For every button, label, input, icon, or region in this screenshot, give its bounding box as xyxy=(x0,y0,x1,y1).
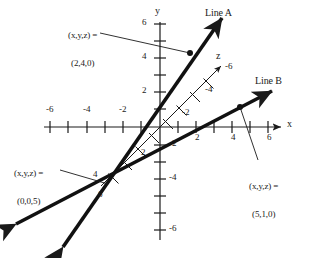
callout-005-line1: (x,y,z) = xyxy=(14,169,43,178)
callout-510: (x,y,z) = (5,1,0) xyxy=(249,163,278,239)
y-tick-label-2: 2 xyxy=(142,86,146,95)
z-tick-label-2: 2 xyxy=(141,148,145,157)
leader-240 xyxy=(100,33,190,53)
z-tick-label-6: 6 xyxy=(98,190,102,199)
line-b-label: Line B xyxy=(255,76,282,87)
x-tick-label-neg6: -6 xyxy=(46,105,53,114)
line-b-path xyxy=(16,91,272,224)
y-tick-label-4: 4 xyxy=(142,52,146,61)
y-tick-label-neg2: -2 xyxy=(169,139,176,148)
callout-240: (x,y,z) = (2,4,0) xyxy=(68,12,97,88)
leader-510 xyxy=(240,107,258,160)
callout-510-line2: (5,1,0) xyxy=(249,210,278,219)
callout-240-line2: (2,4,0) xyxy=(68,59,97,68)
x-tick-label-2: 2 xyxy=(195,133,199,142)
callout-005-line2: (0,0,5) xyxy=(14,197,43,206)
z-tick-label-neg6: -6 xyxy=(225,62,232,71)
callout-005: (x,y,z) = (0,0,5) xyxy=(14,150,43,226)
x-tick-label-neg2: -2 xyxy=(119,105,126,114)
y-tick-label-6: 6 xyxy=(142,18,146,27)
callout-240-line1: (x,y,z) = xyxy=(68,31,97,40)
z-axis-label: z xyxy=(216,51,220,62)
z-tick-label-neg4: -4 xyxy=(205,85,212,94)
z-tick-label-4: 4 xyxy=(93,170,97,179)
diagram-canvas: y x z -6 -4 -2 2 4 6 6 4 2 -2 -4 -6 -6 -… xyxy=(0,0,314,258)
y-tick-label-neg4: -4 xyxy=(169,173,176,182)
x-tick-label-4: 4 xyxy=(231,133,235,142)
y-axis-label: y xyxy=(155,6,160,17)
line-a-label: Line A xyxy=(205,8,232,19)
callout-510-line1: (x,y,z) = xyxy=(249,182,278,191)
x-tick-label-6: 6 xyxy=(267,133,271,142)
x-tick-label-neg4: -4 xyxy=(83,105,90,114)
leader-005 xyxy=(60,170,108,184)
y-tick-label-neg6: -6 xyxy=(169,224,176,233)
x-axis-label: x xyxy=(287,119,292,130)
z-tick-label-neg2: -2 xyxy=(182,108,189,117)
